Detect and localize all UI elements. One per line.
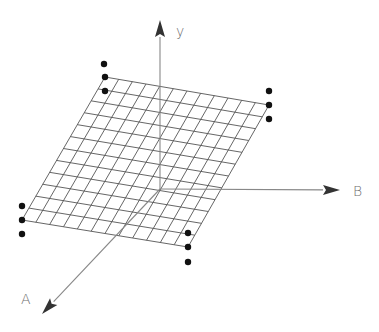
axes	[42, 20, 340, 314]
axis-labels: y B A	[21, 23, 362, 307]
corner-dot-bottom-left	[19, 217, 25, 223]
grid-line-v	[43, 184, 209, 211]
corner-dot-bottom-right	[185, 230, 191, 236]
corner-dot-bottom-left	[19, 231, 25, 237]
corner-dot-top-right	[266, 88, 272, 94]
grid-line-v	[50, 172, 215, 199]
corner-dot-top-left	[102, 88, 108, 94]
grid-line-v	[98, 89, 262, 117]
axis-line-b	[160, 189, 323, 190]
grid-line-v	[36, 196, 202, 223]
axis-label-y: y	[176, 23, 184, 39]
arrowhead-icon	[323, 185, 340, 195]
plane-grid	[22, 77, 269, 247]
grid-line-v	[91, 101, 255, 129]
arrowhead-icon	[155, 20, 165, 37]
grid-line-v	[22, 220, 188, 247]
grid-line-v	[84, 113, 249, 141]
corner-dot-top-left	[102, 74, 108, 80]
corner-dot-bottom-left	[19, 203, 25, 209]
corner-dot-bottom-right	[185, 259, 191, 265]
grid-line-v	[105, 77, 269, 105]
axis-line-a	[54, 189, 160, 302]
grid-line-v	[64, 149, 229, 177]
corner-dot-bottom-right	[185, 244, 191, 250]
grid-line-v	[70, 137, 235, 165]
corner-dot-top-right	[266, 116, 272, 122]
axis-label-b: B	[353, 183, 362, 199]
corner-dot-top-right	[266, 102, 272, 108]
corner-dot-top-left	[101, 61, 107, 67]
axis-label-a: A	[21, 291, 31, 307]
grid-line-v	[57, 160, 222, 187]
diagram-canvas: y B A	[0, 0, 379, 332]
grid-line-v	[29, 208, 195, 235]
